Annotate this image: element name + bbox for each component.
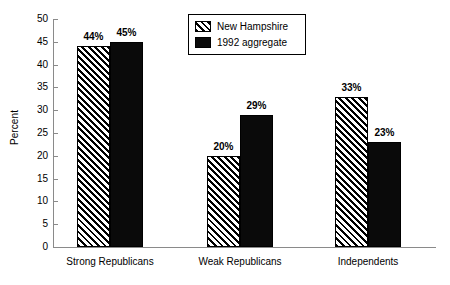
bar-value-label: 33% <box>341 83 361 93</box>
bar-new-hampshire[interactable]: 44% <box>77 46 110 247</box>
bar-1992-aggregate[interactable]: 29% <box>240 115 273 247</box>
legend-label-1992-aggregate: 1992 aggregate <box>217 37 287 48</box>
y-axis-title: Percent <box>9 93 20 163</box>
legend: New Hampshire 1992 aggregate <box>188 14 306 55</box>
bar-value-label: 20% <box>213 142 233 152</box>
y-tick-label: 5 <box>22 219 48 229</box>
y-tick-label: 50 <box>22 14 48 24</box>
legend-swatch-solid-icon <box>195 37 211 48</box>
bar-new-hampshire[interactable]: 33% <box>335 97 368 247</box>
y-tick-label: 40 <box>22 60 48 70</box>
bar-value-label: 29% <box>246 101 266 111</box>
y-tick-mark <box>54 247 58 248</box>
legend-swatch-hatch-icon <box>195 21 211 32</box>
x-axis-label: Strong Republicans <box>66 256 153 267</box>
y-tick-label: 35 <box>22 82 48 92</box>
x-axis-label: Weak Republicans <box>198 256 281 267</box>
x-axis-label: Independents <box>338 256 399 267</box>
y-tick-label: 30 <box>22 105 48 115</box>
legend-item-new-hampshire: New Hampshire <box>195 19 299 33</box>
y-tick-label: 45 <box>22 37 48 47</box>
legend-item-1992-aggregate: 1992 aggregate <box>195 35 299 49</box>
y-tick-label: 25 <box>22 128 48 138</box>
bar-group: 44%45% <box>77 19 143 247</box>
y-tick-label: 0 <box>22 242 48 252</box>
bar-value-label: 44% <box>83 32 103 42</box>
x-axis-line <box>53 247 436 248</box>
y-tick-label: 15 <box>22 174 48 184</box>
bar-1992-aggregate[interactable]: 45% <box>110 42 143 247</box>
y-tick-label: 20 <box>22 151 48 161</box>
bar-group: 33%23% <box>335 19 401 247</box>
bar-value-label: 23% <box>374 128 394 138</box>
legend-label-new-hampshire: New Hampshire <box>217 21 288 32</box>
bar-value-label: 45% <box>116 28 136 38</box>
bar-chart: Percent 05101520253035404550 44%45%20%29… <box>0 0 450 285</box>
y-tick-label: 10 <box>22 196 48 206</box>
bar-new-hampshire[interactable]: 20% <box>207 156 240 247</box>
bar-1992-aggregate[interactable]: 23% <box>368 142 401 247</box>
